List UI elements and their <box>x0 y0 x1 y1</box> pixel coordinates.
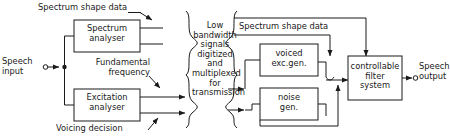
leader-voicing-decision <box>148 118 158 130</box>
box-label-excitation-analyser: Excitation analyser <box>74 93 140 112</box>
label-spectrum-shape-data-left: Spectrum shape data <box>38 3 127 13</box>
speech-output-terminal <box>413 76 418 81</box>
box-label-spectrum-analyser: Spectrum analyser <box>74 24 140 43</box>
box-label-controllable-filter-system: controllable filter system <box>348 62 402 91</box>
label-spectrum-shape-data-right: Spectrum shape data <box>239 22 328 32</box>
speech-input-terminal <box>43 65 48 70</box>
label-voicing-decision: Voicing decision <box>56 124 123 134</box>
label-speech-output: Speech output <box>419 62 450 81</box>
label-speech-input: Speech input <box>2 57 42 76</box>
label-channel-description: Low bandwidth signals digitized and mult… <box>192 21 238 98</box>
box-label-noise-gen: noise gen. <box>260 93 318 112</box>
box-label-voiced-exc-gen: voiced exc.gen. <box>260 49 318 68</box>
leader-spectrum-shape-left <box>140 13 152 21</box>
leader-fundamental-frequency <box>149 76 160 88</box>
label-fundamental-frequency: Fundamental frequency <box>82 58 150 77</box>
